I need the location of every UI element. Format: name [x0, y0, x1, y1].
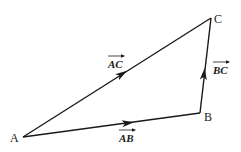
edge-ac	[23, 18, 211, 137]
vector-label-ac-text: AC	[107, 58, 123, 70]
edge-ab	[23, 113, 200, 137]
vector-label-ab-text: AB	[118, 132, 134, 144]
point-label-c: C	[214, 12, 222, 26]
vector-label-bc: BC	[212, 60, 230, 76]
vector-label-bc-text: BC	[212, 64, 228, 76]
point-label-a: A	[10, 131, 19, 145]
vector-triangle-diagram: A B C AC BC AB	[0, 0, 241, 152]
vector-label-ac: AC	[107, 54, 125, 70]
edge-bc	[200, 18, 211, 113]
point-label-b: B	[204, 110, 212, 124]
vector-label-ab: AB	[118, 128, 136, 144]
